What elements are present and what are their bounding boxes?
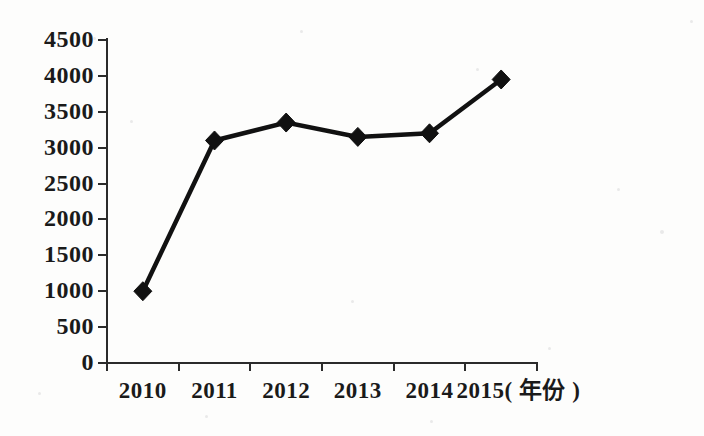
data-point-marker — [206, 131, 224, 150]
data-series-group — [0, 0, 704, 436]
scan-speck — [430, 420, 433, 423]
scan-speck — [130, 120, 133, 123]
series-markers-group — [134, 70, 510, 301]
scan-speck — [690, 20, 693, 23]
data-point-marker — [134, 282, 152, 301]
scan-speck — [205, 415, 208, 418]
scan-speck — [300, 30, 303, 33]
plot-area: 050010001500200025003000350040004500 201… — [0, 0, 704, 436]
data-point-marker — [277, 113, 295, 132]
chart-figure: 050010001500200025003000350040004500 201… — [0, 0, 704, 436]
data-point-marker — [349, 127, 367, 146]
scan-speck — [38, 392, 41, 395]
series-line-path — [143, 80, 501, 292]
scan-speck — [476, 68, 479, 71]
scan-speck — [617, 188, 620, 191]
scan-speck — [548, 347, 551, 350]
scan-speck — [93, 37, 96, 40]
scan-speck — [351, 300, 354, 303]
scan-speck — [660, 230, 664, 234]
